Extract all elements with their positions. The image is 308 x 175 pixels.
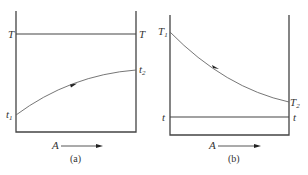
diagram-a-frame <box>16 11 136 132</box>
label-a-T-left: T <box>8 28 15 40</box>
label-b-axis-A: A <box>208 139 216 151</box>
diagram-b-axis-arrow-icon <box>254 144 261 148</box>
diagram-a: T T t1 t2 A (a) <box>6 11 146 165</box>
caption-b: (b) <box>228 153 240 165</box>
label-b-t-right: t <box>293 111 297 123</box>
label-b-T2: T2 <box>290 96 300 110</box>
label-a-T-right: T <box>139 28 146 40</box>
label-b-T1: T1 <box>158 25 168 39</box>
label-b-t-left: t <box>162 111 166 123</box>
caption-a: (a) <box>70 153 81 165</box>
label-a-axis-A: A <box>51 139 59 151</box>
diagram-b: T1 T2 t t A (b) <box>158 15 300 165</box>
diagram-a-rising-curve <box>16 70 136 115</box>
label-a-t2: t2 <box>139 63 146 77</box>
heat-exchanger-temperature-profiles: T T t1 t2 A (a) T1 T2 t t A (b) <box>0 0 308 175</box>
diagram-a-axis-arrow-icon <box>96 144 103 148</box>
diagram-b-falling-curve <box>170 32 289 102</box>
label-a-t1: t1 <box>6 108 13 122</box>
